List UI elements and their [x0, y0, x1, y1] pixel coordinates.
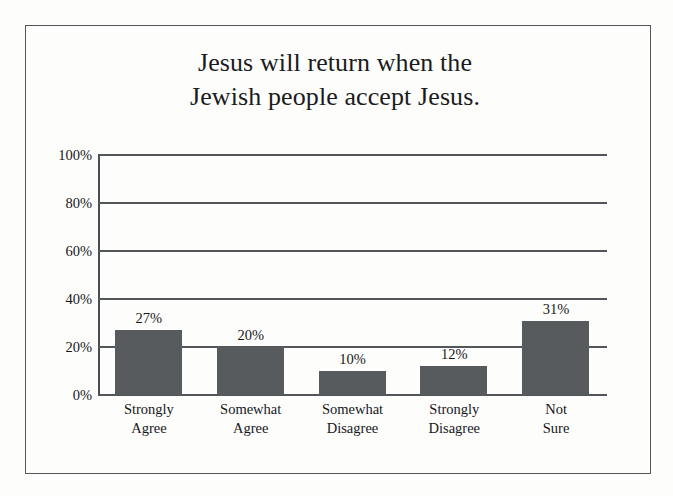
bar: [522, 321, 589, 395]
chart-title-line-2: Jewish people accept Jesus.: [70, 80, 600, 114]
y-axis-tick-labels: 0%20%40%60%80%100%: [36, 155, 92, 395]
y-tick-label: 80%: [36, 195, 92, 212]
x-category-label-line: Somewhat: [200, 400, 302, 419]
bar-slot: 20%: [200, 155, 302, 395]
plot-area: 27%20%10%12%31%: [98, 155, 607, 395]
bar-slot: 27%: [98, 155, 200, 395]
x-axis-category-labels: StronglyAgreeSomewhatAgreeSomewhatDisagr…: [98, 400, 607, 452]
x-category-label: StronglyAgree: [98, 400, 200, 437]
x-category-label-line: Disagree: [403, 419, 505, 438]
x-category-label-line: Agree: [200, 419, 302, 438]
y-tick-label: 100%: [36, 147, 92, 164]
bar-value-label: 31%: [505, 301, 607, 318]
x-category-label-line: Disagree: [302, 419, 404, 438]
bar-slot: 31%: [505, 155, 607, 395]
x-category-label-line: Somewhat: [302, 400, 404, 419]
bar-slot: 12%: [403, 155, 505, 395]
x-category-label-line: Strongly: [98, 400, 200, 419]
y-tick-label: 40%: [36, 291, 92, 308]
x-category-label: NotSure: [505, 400, 607, 437]
bar: [217, 347, 284, 395]
x-category-label-line: Strongly: [403, 400, 505, 419]
bar: [115, 330, 182, 395]
bar: [420, 366, 487, 395]
x-category-label: SomewhatDisagree: [302, 400, 404, 437]
x-category-label-line: Agree: [98, 419, 200, 438]
bar-value-label: 12%: [403, 346, 505, 363]
y-tick-label: 0%: [36, 387, 92, 404]
bar-value-label: 27%: [98, 310, 200, 327]
x-category-label-line: Not: [505, 400, 607, 419]
x-category-label: SomewhatAgree: [200, 400, 302, 437]
bar-slot: 10%: [302, 155, 404, 395]
chart-title: Jesus will return when the Jewish people…: [70, 46, 600, 114]
chart-page: Jesus will return when the Jewish people…: [0, 0, 673, 496]
bar-value-label: 20%: [200, 327, 302, 344]
bar: [319, 371, 386, 395]
y-tick-label: 60%: [36, 243, 92, 260]
x-category-label: StronglyDisagree: [403, 400, 505, 437]
chart-title-line-1: Jesus will return when the: [70, 46, 600, 80]
x-category-label-line: Sure: [505, 419, 607, 438]
bar-value-label: 10%: [302, 351, 404, 368]
y-tick-label: 20%: [36, 339, 92, 356]
